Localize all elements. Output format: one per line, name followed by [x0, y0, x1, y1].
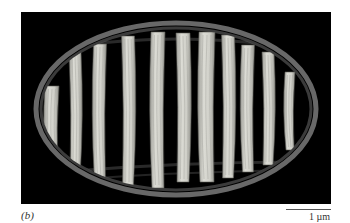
panel-label: (b): [21, 209, 34, 221]
micrograph-panel: [21, 12, 331, 204]
mitochondrion-image: [21, 12, 331, 204]
scale-bar-label: 1 µm: [309, 211, 330, 222]
scale-bar: [286, 209, 331, 210]
